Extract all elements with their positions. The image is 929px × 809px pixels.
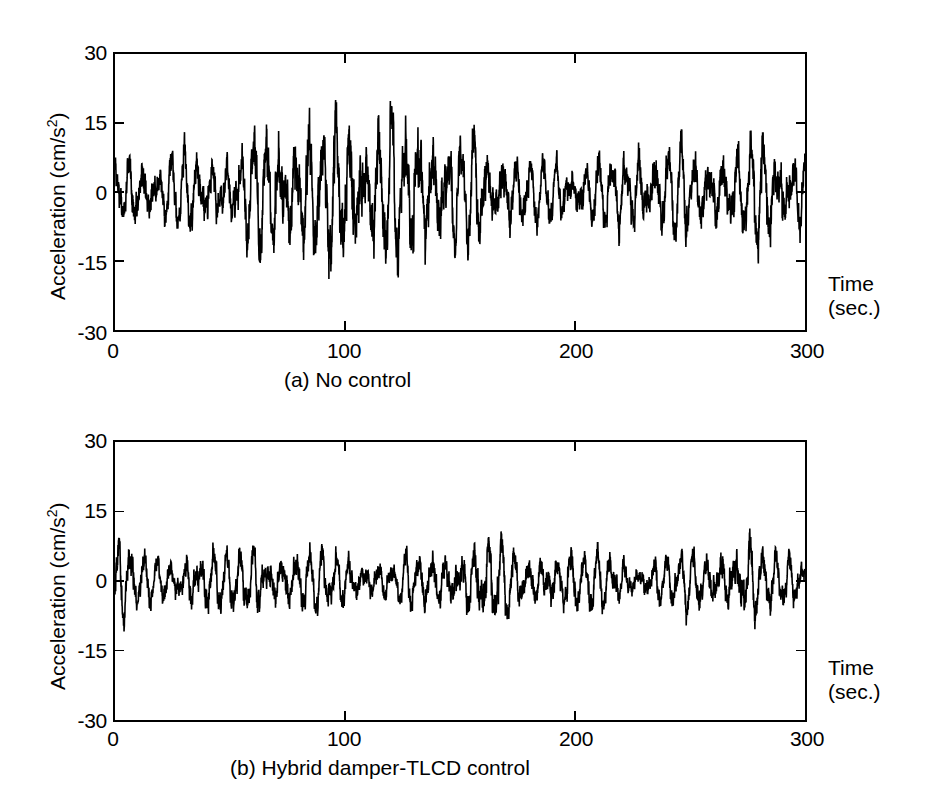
x-tick-label: 300 xyxy=(776,728,838,749)
plot-area-no-control xyxy=(113,52,807,332)
panel-hybrid-damper-tlcd-control: 30 15 0 -15 -30 0 100 200 300 Accelerati… xyxy=(0,404,929,809)
x-tick-label: 100 xyxy=(313,340,375,361)
x-tick-label: 200 xyxy=(545,340,607,361)
x-tick-label: 0 xyxy=(93,340,133,361)
y-axis-title: Acceleration (cm/s2) xyxy=(44,112,70,300)
panel-caption: (a) No control xyxy=(0,368,695,392)
y-tick-label: 30 xyxy=(55,42,107,63)
y-axis-title: Acceleration (cm/s2) xyxy=(44,502,70,690)
x-tick-label: 300 xyxy=(776,340,838,361)
plot-area-hybrid-damper-tlcd-control xyxy=(113,440,807,722)
waveform-no-control xyxy=(115,54,805,330)
x-tick-label: 0 xyxy=(93,728,133,749)
x-axis-title-line1: Time xyxy=(828,272,874,295)
y-axis-title-text: Acceleration (cm/s xyxy=(46,517,69,690)
panel-caption: (b) Hybrid damper-TLCD control xyxy=(0,756,760,780)
x-axis-title-line2: (sec.) xyxy=(828,296,881,320)
y-tick-label: 30 xyxy=(55,430,107,451)
x-axis-title: Time(sec.) xyxy=(828,656,881,704)
y-axis-title-exponent: 2 xyxy=(44,509,60,517)
x-axis-title: Time(sec.) xyxy=(828,272,881,320)
panel-no-control: 30 15 0 -15 -30 0 100 200 300 Accelerati… xyxy=(0,0,929,405)
figure-acceleration-time-histories: 30 15 0 -15 -30 0 100 200 300 Accelerati… xyxy=(0,0,929,809)
x-tick-label: 200 xyxy=(545,728,607,749)
x-axis-title-line1: Time xyxy=(828,656,874,679)
x-axis-title-line2: (sec.) xyxy=(828,680,881,704)
y-axis-title-text: Acceleration (cm/s xyxy=(46,127,69,300)
waveform-hybrid-damper-tlcd-control xyxy=(115,442,805,720)
y-axis-title-exponent: 2 xyxy=(44,119,60,127)
y-axis-title-tail: ) xyxy=(46,502,69,509)
y-axis-title-tail: ) xyxy=(46,112,69,119)
x-tick-label: 100 xyxy=(313,728,375,749)
